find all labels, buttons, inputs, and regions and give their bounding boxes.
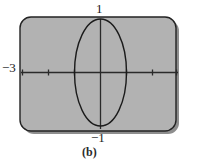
y-min-label: −1 [91,131,105,144]
x-min-label: −3 [2,61,16,74]
figure-container: 1 −1 −3 (b) [0,0,197,163]
figure-caption: (b) [82,146,97,158]
y-max-label: 1 [96,2,103,15]
